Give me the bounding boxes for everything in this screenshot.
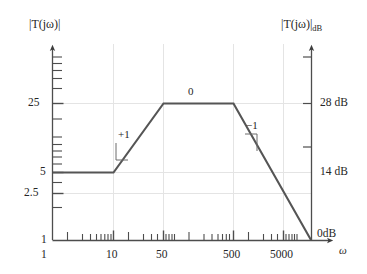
x-tick-label-1: 1 [41,249,47,261]
y-tick-label-25: 25 [28,97,40,109]
x-tick-label-500: 500 [223,249,240,261]
bode-magnitude-plot: |T(jω)| |T(jω)|dB 25 5 2.5 1 1 10 50 500… [0,0,367,274]
slope-annotation-plus-one: +1 [118,129,130,140]
x-tick-label-50: 50 [156,249,168,261]
grid-lines [52,44,311,240]
right-axis-title-text: |T(jω)| [281,17,312,31]
x-axis-ticks [68,231,298,241]
x-axis-title: ω [339,245,347,256]
right-y-axis-ticks [303,57,312,147]
y-tick-label-1: 1 [41,234,47,246]
x-tick-label-5000: 5000 [270,249,293,261]
x-tick-label-10: 10 [106,249,118,261]
slope-annotation-minus-one: −1 [246,120,258,131]
db-label-14: 14 dB [320,166,348,178]
slope-bracket-plus-one [116,143,128,160]
plot-canvas [0,0,367,274]
left-axis-title-text: |T(jω)| [29,17,60,31]
left-y-axis-ticks [53,57,64,208]
right-axis-title: |T(jω)|dB [281,18,322,33]
right-axis-title-subscript: dB [312,23,322,33]
y-tick-label-2p5: 2.5 [24,187,38,199]
slope-annotation-zero: 0 [188,86,194,97]
db-label-28: 28 dB [320,97,348,109]
magnitude-curve [53,104,311,241]
left-axis-title: |T(jω)| [29,18,60,30]
db-label-0: 0dB [317,228,336,240]
y-tick-label-5: 5 [40,166,46,178]
